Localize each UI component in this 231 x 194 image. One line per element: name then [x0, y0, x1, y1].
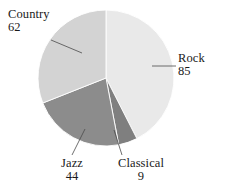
- slice-label-classical-value: 9: [110, 170, 172, 183]
- slice-label-country: Country 62: [8, 8, 50, 34]
- slice-label-rock: Rock 85: [178, 52, 205, 78]
- slice-label-classical: Classical 9: [110, 157, 172, 183]
- slice-label-jazz: Jazz 44: [51, 157, 93, 183]
- slice-label-rock-value: 85: [178, 65, 205, 78]
- pie-slice-group: [38, 10, 174, 146]
- slice-label-jazz-value: 44: [51, 170, 93, 183]
- pie-chart: Country 62 Rock 85 Jazz 44 Classical 9: [0, 0, 231, 194]
- slice-label-country-value: 62: [8, 21, 50, 34]
